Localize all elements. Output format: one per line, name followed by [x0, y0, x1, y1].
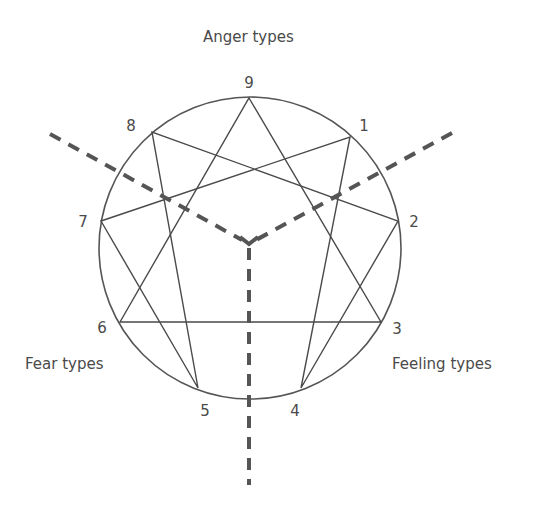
point-label-2: 2	[409, 213, 419, 231]
inner-triangle	[120, 98, 381, 322]
label-anger-types: Anger types	[203, 28, 294, 46]
group-dividers	[50, 133, 452, 485]
point-label-5: 5	[200, 402, 210, 420]
point-label-6: 6	[97, 319, 107, 337]
point-label-9: 9	[244, 74, 254, 92]
divider-center-y	[240, 237, 258, 244]
point-label-7: 7	[78, 213, 88, 231]
label-fear-types: Fear types	[25, 355, 104, 373]
enneagram-diagram	[0, 0, 539, 509]
point-label-4: 4	[290, 402, 300, 420]
point-label-3: 3	[392, 320, 402, 338]
label-feeling-types: Feeling types	[392, 355, 492, 373]
point-label-1: 1	[359, 117, 369, 135]
point-label-8: 8	[126, 117, 136, 135]
